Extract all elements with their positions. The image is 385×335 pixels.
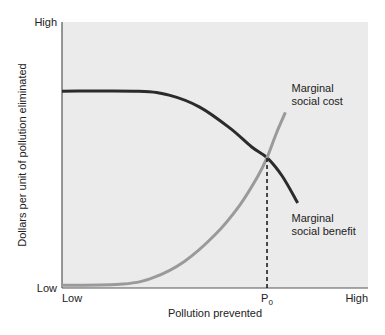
x-axis-label: Pollution prevented xyxy=(168,307,262,319)
chart: LowHigh LowP0High Pollution prevented Do… xyxy=(0,0,385,335)
plot-background xyxy=(62,22,368,288)
x-tick-label: Low xyxy=(62,292,82,304)
x-tick-label: High xyxy=(345,292,368,304)
y-tick-labels: LowHigh xyxy=(34,16,57,294)
x-tick-label: P0 xyxy=(261,292,273,307)
y-tick-label: High xyxy=(34,16,57,28)
x-tick-labels: LowP0High xyxy=(62,292,368,307)
y-tick-label: Low xyxy=(37,282,57,294)
y-axis-label: Dollars per unit of pollution eliminated xyxy=(16,63,28,246)
